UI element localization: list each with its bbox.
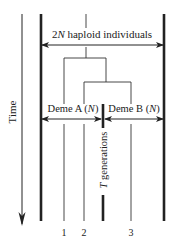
lineage-label-1: 1 (62, 227, 67, 238)
deme-a-label: Deme A (N) (48, 103, 99, 115)
split-time-label: T generations (98, 132, 109, 189)
lineage-label-3: 3 (129, 227, 134, 238)
population-size-label: 2N haploid individuals (52, 28, 152, 40)
lineage-label-2: 2 (82, 227, 87, 238)
deme-b-label: Deme B (N) (108, 103, 160, 115)
coalescent-diagram: Time 2N haploid individuals Deme A (N) D… (0, 0, 175, 244)
time-axis-label: Time (6, 100, 18, 123)
time-axis: Time (6, 14, 26, 226)
